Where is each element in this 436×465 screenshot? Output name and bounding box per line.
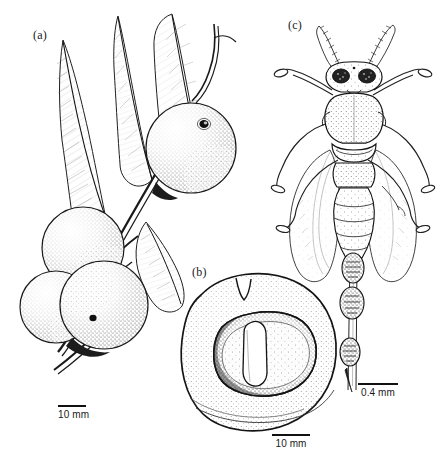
scalebar-a-label: 10 mm xyxy=(58,409,86,420)
panel-label-a: (a) xyxy=(33,28,47,43)
ovipositor xyxy=(340,253,364,392)
figure-plate: (a) (b) (c) 10 mm 10 mm 0.4 mm xyxy=(0,0,436,465)
panel-label-c: (c) xyxy=(288,18,302,33)
scalebar-c: 0.4 mm xyxy=(358,383,398,398)
panel-b-illustration xyxy=(181,274,336,431)
fig-fruit-upper xyxy=(146,103,244,205)
scalebar-a: 10 mm xyxy=(58,405,86,420)
panel-label-b: (b) xyxy=(192,265,207,280)
wasp-abdomen xyxy=(334,188,375,258)
wasp-head xyxy=(326,62,382,94)
scalebar-b: 10 mm xyxy=(272,434,310,449)
scalebar-c-label: 0.4 mm xyxy=(358,387,398,398)
scalebar-b-line xyxy=(272,434,310,436)
scalebar-a-line xyxy=(58,405,86,407)
scalebar-c-line xyxy=(358,383,398,385)
scalebar-b-label: 10 mm xyxy=(272,438,310,449)
